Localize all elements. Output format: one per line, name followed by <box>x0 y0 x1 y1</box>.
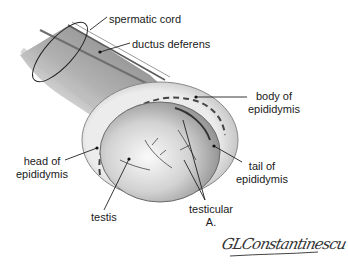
label-head-of-epididymis: head of epididymis <box>16 155 68 181</box>
label-line-1: body of <box>248 90 300 103</box>
label-testis: testis <box>91 211 117 224</box>
label-line-1: tail of <box>236 160 288 173</box>
label-ductus-deferens: ductus deferens <box>132 38 210 51</box>
label-line-1: head of <box>16 155 68 168</box>
label-tail-of-epididymis: tail of epididymis <box>236 160 288 186</box>
artist-signature: GLConstantinescu <box>220 235 347 253</box>
label-line-2: epididymis <box>16 168 68 181</box>
testis-shape <box>100 102 220 202</box>
label-line-2: epididymis <box>248 103 300 116</box>
label-testicular-artery: testicular A. <box>189 203 233 229</box>
label-line-2: epididymis <box>236 173 288 186</box>
label-line-2: A. <box>189 216 233 229</box>
label-body-of-epididymis: body of epididymis <box>248 90 300 116</box>
label-spermatic-cord: spermatic cord <box>109 13 181 26</box>
label-line-1: testicular <box>189 203 233 216</box>
